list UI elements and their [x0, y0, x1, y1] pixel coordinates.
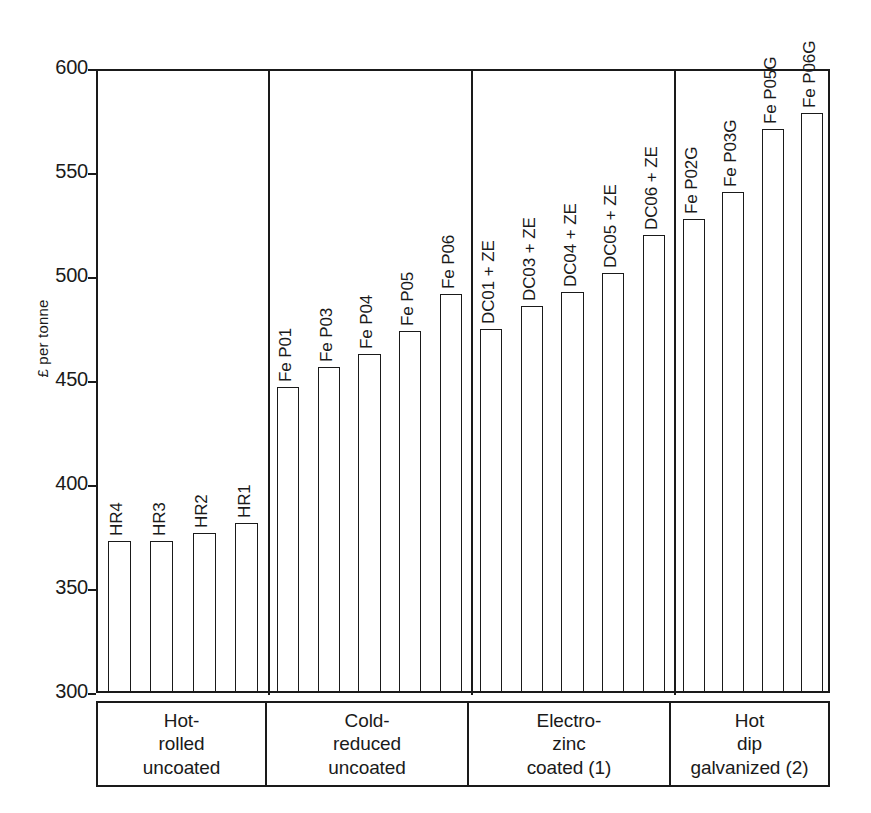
bar: DC04 + ZE [561, 292, 583, 691]
bar-label: Fe P05 [399, 272, 416, 326]
bar: Fe P01 [277, 387, 299, 691]
bar-label: Fe P06 [440, 235, 457, 289]
y-tick-label: 400 [42, 473, 88, 493]
bar: Fe P05 [399, 331, 421, 691]
bar-label: DC05 + ZE [602, 184, 619, 268]
category-group-label-line: uncoated [143, 756, 220, 779]
category-group-label-line: dip [737, 732, 762, 755]
y-tick-label: 350 [42, 577, 88, 597]
plot-area: HR4HR3HR2HR1Fe P01Fe P03Fe P04Fe P05Fe P… [96, 69, 830, 693]
group-divider [268, 71, 270, 695]
bar-label: DC04 + ZE [562, 203, 579, 287]
bar: HR1 [235, 523, 258, 691]
bar-chart-figure: £ per tonne 300350400450500550600 HR4HR3… [0, 0, 871, 813]
bar: Fe P04 [358, 354, 380, 691]
category-group-cell: Hotdipgalvanized (2) [671, 703, 828, 785]
y-tick-label: 550 [42, 161, 88, 181]
y-tick-label: 300 [42, 681, 88, 701]
bar-label: HR1 [236, 484, 253, 518]
bar-label: DC03 + ZE [521, 218, 538, 302]
bar-label: Fe P05G [762, 57, 779, 124]
y-tick-label: 500 [42, 265, 88, 285]
category-group-label-line: Hot- [164, 709, 200, 732]
category-group-label-line: galvanized (2) [690, 756, 808, 779]
group-divider [471, 71, 473, 695]
bar-label: HR4 [108, 503, 125, 537]
category-group-label-line: coated (1) [527, 756, 612, 779]
bar: DC01 + ZE [480, 329, 502, 691]
y-tick-label: 450 [42, 369, 88, 389]
bar: HR3 [150, 541, 173, 691]
category-group-label-line: Electro- [537, 709, 602, 732]
category-group-label-line: zinc [552, 732, 585, 755]
bar-label: HR3 [151, 503, 168, 537]
category-group-label-line: Hot [735, 709, 764, 732]
category-group-cell: Electro-zinccoated (1) [469, 703, 671, 785]
bar: Fe P03G [722, 192, 744, 691]
bar-label: Fe P03 [318, 307, 335, 361]
group-divider [674, 71, 676, 695]
category-group-label-line: uncoated [328, 756, 405, 779]
category-group-label-line: rolled [159, 732, 205, 755]
bar-label: Fe P04 [358, 295, 375, 349]
category-group-cell: Cold-reduceduncoated [267, 703, 469, 785]
bar: Fe P02G [683, 219, 705, 691]
y-tick-label: 600 [42, 57, 88, 77]
bar-label: DC01 + ZE [480, 240, 497, 324]
y-tick-mark [88, 69, 96, 71]
bar-label: Fe P01 [277, 328, 294, 382]
bar-label: Fe P03G [722, 119, 739, 186]
bar: HR4 [108, 541, 131, 691]
bar: HR2 [193, 533, 216, 691]
bar: DC05 + ZE [602, 273, 624, 691]
bar: Fe P03 [318, 367, 340, 691]
bar-label: Fe P06G [801, 40, 818, 107]
bar-label: DC06 + ZE [643, 147, 660, 231]
y-tick-mark [88, 589, 96, 591]
bar: DC06 + ZE [643, 235, 665, 691]
bar-label: Fe P02G [683, 147, 700, 214]
y-tick-mark [88, 693, 96, 695]
bar-label: HR2 [193, 494, 210, 528]
category-group-cell: Hot-rolleduncoated [98, 703, 267, 785]
bar: DC03 + ZE [521, 306, 543, 691]
bar: Fe P06G [801, 113, 823, 691]
y-tick-mark [88, 381, 96, 383]
y-tick-mark [88, 485, 96, 487]
y-tick-mark [88, 173, 96, 175]
bar: Fe P06 [440, 294, 462, 691]
bar: Fe P05G [762, 129, 784, 691]
category-group-label-line: reduced [333, 732, 401, 755]
category-group-table: Hot-rolleduncoatedCold-reduceduncoatedEl… [96, 701, 830, 787]
y-tick-mark [88, 277, 96, 279]
category-group-label-line: Cold- [345, 709, 390, 732]
y-axis-tick-labels: 300350400450500550600 [40, 0, 88, 813]
